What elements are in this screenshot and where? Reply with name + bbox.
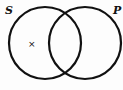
circle-p bbox=[49, 7, 121, 79]
label-p: P bbox=[112, 4, 122, 17]
label-s: S bbox=[5, 4, 13, 17]
venn-diagram: S P × bbox=[0, 0, 123, 90]
x-mark: × bbox=[28, 39, 36, 49]
circle-s bbox=[9, 7, 81, 79]
